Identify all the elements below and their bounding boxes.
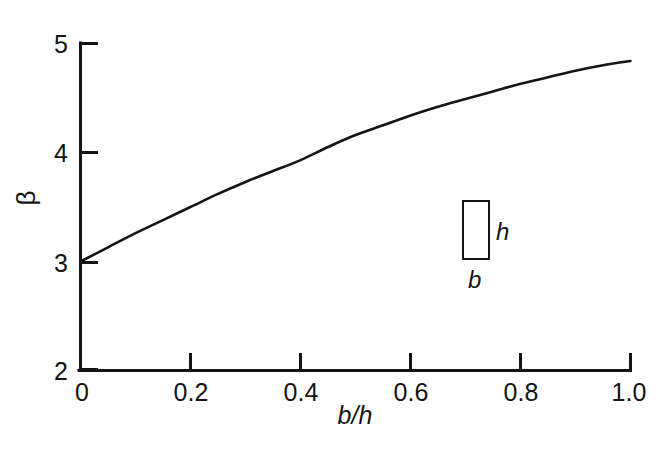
x-tick-label-3: 0.6 <box>394 380 429 405</box>
x-tick-label-2: 0.4 <box>284 380 319 405</box>
cross-section-width-label: b <box>468 268 481 292</box>
y-tick-label-1: 3 <box>48 251 68 276</box>
y-tick-label-2: 4 <box>48 141 68 166</box>
cross-section-inset: h b <box>460 198 550 298</box>
y-tick-label-0: 2 <box>48 359 68 384</box>
cross-section-height-label: h <box>496 220 509 244</box>
x-axis-title: b/h <box>338 403 373 428</box>
cross-section-rectangle <box>462 200 490 260</box>
y-axis-title: β <box>13 191 39 206</box>
x-tick-label-4: 0.8 <box>504 380 539 405</box>
x-tick-label-1: 0.2 <box>174 380 209 405</box>
x-tick-label-0: 0 <box>75 380 89 405</box>
chart-figure: 0 0.2 0.4 0.6 0.8 1.0 2 3 4 5 b/h β h b <box>0 0 663 455</box>
y-tick-label-3: 5 <box>48 32 68 57</box>
chart-plot-area <box>0 0 663 455</box>
chart-background <box>0 0 663 455</box>
x-tick-label-5: 1.0 <box>612 380 647 405</box>
